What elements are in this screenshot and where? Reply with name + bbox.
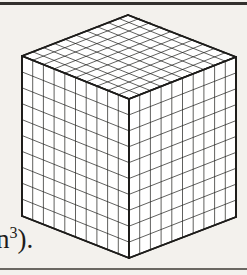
- caption-tail: ).: [18, 224, 34, 254]
- bottom-horizontal-rule: [0, 268, 247, 270]
- caption-superscript: 3: [10, 224, 18, 241]
- page-canvas: n3).: [0, 0, 247, 275]
- caption-text-fragment: n3).: [0, 224, 33, 255]
- caption-base: n: [0, 224, 10, 254]
- cube-drawing: [22, 15, 236, 258]
- isometric-cube-figure: [0, 0, 247, 275]
